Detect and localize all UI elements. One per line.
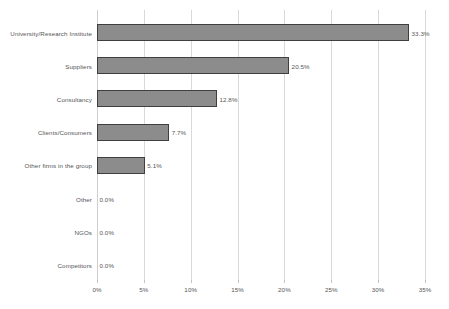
bar[interactable]	[97, 90, 217, 107]
category-label: Other firms in the group	[2, 162, 92, 169]
bar[interactable]	[97, 124, 169, 141]
category-label: Suppliers	[2, 62, 92, 69]
x-tick-label: 30%	[372, 286, 385, 293]
bar-row: Suppliers 20.5%	[97, 49, 425, 82]
bar-value-label: 0.0%	[100, 261, 115, 268]
x-tick-mark	[378, 280, 379, 283]
x-tick-mark	[191, 280, 192, 283]
x-tick-label: 35%	[419, 286, 432, 293]
category-label: Other	[2, 195, 92, 202]
bar-row: NGOs 0.0%	[97, 215, 425, 248]
plot-area: University/Research Institute 33.3% Supp…	[97, 10, 425, 280]
bar-row: Other 0.0%	[97, 182, 425, 215]
category-label-wrap: University/Research Institute	[2, 24, 92, 41]
bar[interactable]	[97, 57, 289, 74]
bar-value-label: 0.0%	[100, 195, 115, 202]
bar-value-label: 7.7%	[172, 129, 187, 136]
category-label: Clients/Consumers	[2, 129, 92, 136]
category-label-wrap: Competitors	[2, 256, 92, 273]
x-tick-label: 0%	[92, 286, 101, 293]
category-label-wrap: Suppliers	[2, 57, 92, 74]
x-tick-label: 10%	[184, 286, 197, 293]
x-tick-mark	[284, 280, 285, 283]
bar-value-label: 12.8%	[219, 95, 237, 102]
bar-value-label: 0.0%	[100, 228, 115, 235]
x-tick-mark	[425, 280, 426, 283]
x-tick-label: 25%	[325, 286, 338, 293]
bar[interactable]	[97, 157, 145, 174]
x-tick-mark	[238, 280, 239, 283]
category-label-wrap: Clients/Consumers	[2, 124, 92, 141]
category-label-wrap: Consultancy	[2, 90, 92, 107]
bar-row: Clients/Consumers 7.7%	[97, 116, 425, 149]
bar-row: Consultancy 12.8%	[97, 82, 425, 115]
bar-row: University/Research Institute 33.3%	[97, 16, 425, 49]
x-tick-mark	[331, 280, 332, 283]
bar-row: Other firms in the group 5.1%	[97, 149, 425, 182]
category-label-wrap: NGOs	[2, 223, 92, 240]
category-label: Competitors	[2, 261, 92, 268]
x-tick-label: 20%	[278, 286, 291, 293]
bar-value-label: 33.3%	[412, 29, 430, 36]
x-tick-mark	[97, 280, 98, 283]
bar-chart: University/Research Institute 33.3% Supp…	[0, 0, 449, 309]
x-tick-mark	[144, 280, 145, 283]
x-tick-label: 5%	[139, 286, 148, 293]
category-label: University/Research Institute	[2, 29, 92, 36]
bar[interactable]	[97, 24, 409, 41]
category-label: Consultancy	[2, 95, 92, 102]
bar-value-label: 20.5%	[292, 62, 310, 69]
x-tick-label: 15%	[231, 286, 244, 293]
category-label-wrap: Other firms in the group	[2, 157, 92, 174]
category-label: NGOs	[2, 228, 92, 235]
bar-value-label: 5.1%	[147, 162, 162, 169]
gridline-35	[425, 10, 426, 280]
x-axis: 0% 5% 10% 15% 20% 25% 30% 35%	[97, 280, 425, 304]
bar-row: Competitors 0.0%	[97, 248, 425, 281]
category-label-wrap: Other	[2, 190, 92, 207]
